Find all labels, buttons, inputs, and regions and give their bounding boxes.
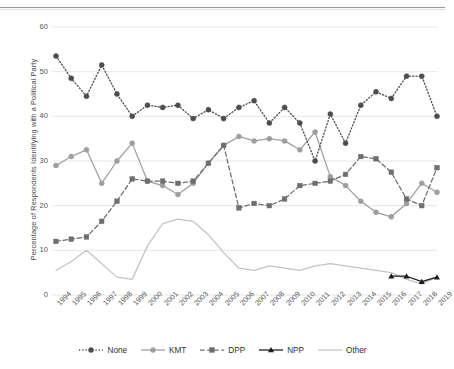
data-point xyxy=(282,197,287,202)
data-point xyxy=(145,179,150,184)
legend-label: KMT xyxy=(169,346,186,355)
data-point xyxy=(435,165,440,170)
data-point xyxy=(389,96,394,101)
data-point xyxy=(252,201,257,206)
data-point xyxy=(343,183,348,188)
data-point xyxy=(175,103,180,108)
data-point xyxy=(160,183,165,188)
data-point xyxy=(435,190,440,195)
data-point xyxy=(435,114,440,119)
y-tick-label: 30 xyxy=(26,156,48,165)
data-point xyxy=(221,143,226,148)
data-point xyxy=(84,235,89,240)
data-point xyxy=(343,141,348,146)
data-point xyxy=(328,179,333,184)
data-point xyxy=(114,159,119,164)
data-point xyxy=(69,154,74,159)
data-point xyxy=(404,197,409,202)
y-tick-label: 10 xyxy=(26,245,48,254)
data-point xyxy=(389,170,394,175)
y-tick-label: 50 xyxy=(26,67,48,76)
data-point xyxy=(130,141,135,146)
data-point xyxy=(297,121,302,126)
legend-label: DPP xyxy=(228,346,245,355)
data-point xyxy=(419,181,424,186)
data-point xyxy=(267,203,272,208)
data-point xyxy=(313,129,318,134)
data-point xyxy=(84,147,89,152)
data-point xyxy=(267,121,272,126)
series-dpp xyxy=(54,143,440,244)
data-point xyxy=(206,161,211,166)
data-point xyxy=(221,116,226,121)
legend-swatch-none xyxy=(78,345,104,355)
legend-swatch-npp xyxy=(258,345,284,355)
data-point xyxy=(160,179,165,184)
data-point xyxy=(236,134,241,139)
data-point xyxy=(54,54,59,59)
series-none xyxy=(54,54,440,164)
legend-item-npp[interactable]: NPP xyxy=(258,345,304,355)
data-point xyxy=(236,105,241,110)
data-point xyxy=(69,76,74,81)
y-tick-label: 20 xyxy=(26,201,48,210)
data-point xyxy=(298,183,303,188)
data-point xyxy=(374,156,379,161)
data-point xyxy=(176,181,181,186)
data-point xyxy=(359,154,364,159)
legend-label: Other xyxy=(346,346,366,355)
data-point xyxy=(419,74,424,79)
data-point xyxy=(145,103,150,108)
legend-item-kmt[interactable]: KMT xyxy=(140,345,186,355)
data-point xyxy=(282,138,287,143)
legend-item-other[interactable]: Other xyxy=(317,345,366,355)
data-point xyxy=(404,74,409,79)
data-point xyxy=(69,237,74,242)
data-point xyxy=(54,163,59,168)
data-point xyxy=(252,98,257,103)
data-point xyxy=(267,136,272,141)
data-point xyxy=(99,219,104,224)
data-point xyxy=(328,112,333,117)
data-point xyxy=(252,138,257,143)
legend-swatch-kmt xyxy=(140,345,166,355)
legend-item-dpp[interactable]: DPP xyxy=(199,345,245,355)
legend-item-none[interactable]: None xyxy=(78,345,127,355)
data-point xyxy=(130,114,135,119)
data-point xyxy=(99,181,104,186)
data-point xyxy=(237,206,242,211)
data-point xyxy=(175,192,180,197)
data-point xyxy=(313,181,318,186)
data-point xyxy=(389,214,394,219)
legend-swatch-other xyxy=(317,345,343,355)
data-point xyxy=(404,201,409,206)
data-point xyxy=(191,179,196,184)
data-point xyxy=(374,89,379,94)
y-tick-label: 40 xyxy=(26,111,48,120)
series-other xyxy=(56,219,437,284)
y-tick-label: 0 xyxy=(26,290,48,299)
data-point xyxy=(160,105,165,110)
data-point xyxy=(191,116,196,121)
data-point xyxy=(114,92,119,97)
chart-legend: NoneKMTDPPNPPOther xyxy=(0,340,445,360)
data-point xyxy=(54,239,59,244)
data-point xyxy=(84,94,89,99)
data-point xyxy=(99,62,104,67)
data-point xyxy=(282,105,287,110)
data-point xyxy=(358,199,363,204)
data-point xyxy=(297,147,302,152)
data-point xyxy=(328,174,333,179)
data-point xyxy=(343,172,348,177)
legend-label: None xyxy=(107,346,127,355)
data-point xyxy=(434,274,440,279)
y-tick-label: 60 xyxy=(26,22,48,31)
data-point xyxy=(206,107,211,112)
legend-label: NPP xyxy=(287,346,304,355)
data-point xyxy=(374,210,379,215)
data-point xyxy=(419,203,424,208)
data-point xyxy=(130,177,135,182)
legend-swatch-dpp xyxy=(199,345,225,355)
